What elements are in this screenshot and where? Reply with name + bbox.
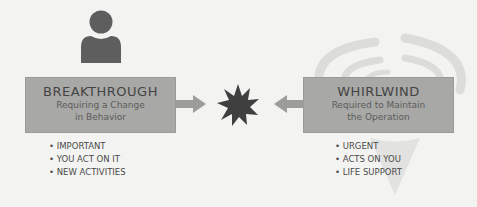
list-item: NEW ACTIVITIES (49, 166, 126, 179)
person-icon (80, 9, 122, 65)
list-item: ACTS ON YOU (335, 153, 402, 166)
whirlwind-subtitle-line1: Required to Maintain (304, 99, 453, 111)
whirlwind-title: WHIRLWIND (304, 84, 453, 99)
whirlwind-subtitle-line2: the Operation (304, 111, 453, 123)
breakthrough-box: BREAKTHROUGH Requiring a Change in Behav… (25, 77, 176, 133)
starburst-icon (216, 83, 260, 127)
breakthrough-subtitle-line1: Requiring a Change (26, 99, 175, 111)
whirlwind-box: WHIRLWIND Required to Maintain the Opera… (303, 77, 454, 133)
list-item: YOU ACT ON IT (49, 153, 126, 166)
list-item: LIFE SUPPORT (335, 166, 402, 179)
breakthrough-title: BREAKTHROUGH (26, 84, 175, 99)
breakthrough-subtitle-line2: in Behavior (26, 111, 175, 123)
arrow-right-icon (176, 95, 206, 113)
breakthrough-bullet-list: IMPORTANT YOU ACT ON IT NEW ACTIVITIES (49, 140, 126, 179)
list-item: IMPORTANT (49, 140, 126, 153)
list-item: URGENT (335, 140, 402, 153)
arrow-left-icon (274, 95, 304, 113)
whirlwind-bullet-list: URGENT ACTS ON YOU LIFE SUPPORT (335, 140, 402, 179)
